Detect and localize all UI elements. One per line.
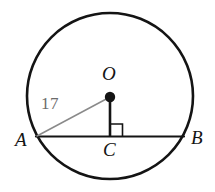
figure-canvas [0,0,215,192]
radius-length-label: 17 [41,95,59,112]
point-label-a: A [15,130,27,149]
center-point-dot [105,92,115,102]
point-label-b: B [191,128,203,147]
point-label-c: C [103,140,116,159]
geometry-figure: O A B C 17 [0,0,215,192]
right-angle-marker-icon [110,124,123,137]
point-label-o: O [102,64,116,83]
